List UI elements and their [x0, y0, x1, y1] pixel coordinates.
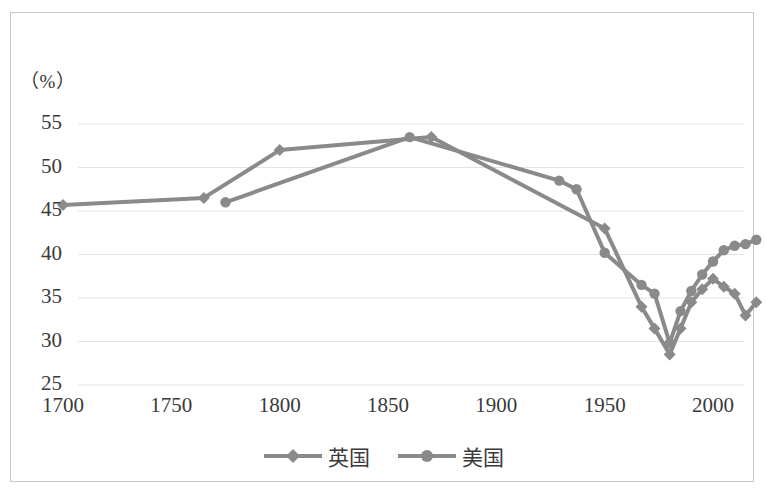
data-point-circle	[697, 269, 707, 279]
y-tick-label: 55	[18, 110, 62, 135]
data-point-circle	[405, 132, 415, 142]
y-tick-label: 45	[18, 197, 62, 222]
data-point-circle	[649, 288, 659, 298]
x-tick-label: 1800	[240, 393, 320, 418]
x-tick-label: 1700	[23, 393, 103, 418]
data-point-circle	[719, 245, 729, 255]
x-tick-label: 1850	[348, 393, 428, 418]
data-point-circle	[686, 286, 696, 296]
legend-item-1[interactable]: 英国	[262, 441, 370, 471]
legend-diamond-marker-icon	[262, 446, 324, 466]
legend-label: 美国	[462, 441, 504, 471]
x-tick-label: 1950	[565, 393, 645, 418]
x-tick-label: 1750	[131, 393, 211, 418]
gridlines-group	[78, 124, 744, 385]
data-point-circle	[571, 184, 581, 194]
series-line	[63, 137, 756, 355]
series-2	[220, 132, 761, 348]
data-point-circle	[675, 306, 685, 316]
data-point-circle	[730, 241, 740, 251]
x-tick-label: 2000	[673, 393, 753, 418]
legend-circle-marker-icon	[396, 446, 458, 466]
data-point-circle	[554, 175, 564, 185]
legend-item-2[interactable]: 美国	[396, 441, 504, 471]
line-chart-plot	[0, 0, 766, 494]
data-point-circle	[220, 197, 230, 207]
y-tick-label: 50	[18, 154, 62, 179]
data-point-circle	[740, 239, 750, 249]
data-point-circle	[708, 256, 718, 266]
data-point-circle	[665, 338, 675, 348]
legend-label: 英国	[328, 441, 370, 471]
chart-legend: 英国美国	[0, 441, 766, 471]
x-tick-label: 1900	[456, 393, 536, 418]
y-tick-label: 30	[18, 328, 62, 353]
y-tick-label: 35	[18, 284, 62, 309]
data-point-circle	[751, 235, 761, 245]
data-point-circle	[636, 280, 646, 290]
y-tick-label: 40	[18, 241, 62, 266]
data-point-circle	[600, 248, 610, 258]
series-layer	[57, 131, 762, 360]
series-1	[57, 131, 762, 360]
chart-page: （%） 25303540455055 170017501800185019001…	[0, 0, 766, 494]
